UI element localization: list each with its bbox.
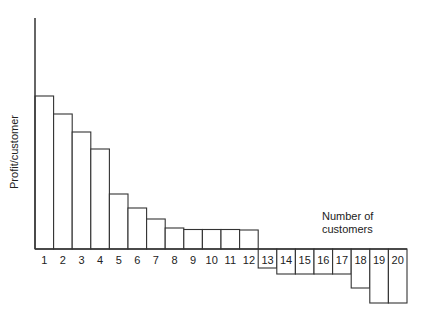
x-tick-label: 11 <box>225 254 236 266</box>
x-axis-label-line-1: Number of <box>322 210 373 223</box>
x-tick-label: 15 <box>299 254 311 266</box>
x-tick-label: 12 <box>243 254 255 266</box>
bar-11 <box>221 230 240 250</box>
chart-canvas: 1234567891011121314151617181920 <box>0 0 421 314</box>
bar-4 <box>91 149 110 249</box>
bar-9 <box>184 230 203 250</box>
x-axis-label: Number of customers <box>322 210 373 236</box>
bar-10 <box>202 230 221 250</box>
x-tick-label: 17 <box>336 254 348 266</box>
x-tick-label: 5 <box>116 254 122 266</box>
x-tick-label: 7 <box>153 254 159 266</box>
bar-8 <box>165 228 184 249</box>
bar-2 <box>54 114 73 249</box>
x-tick-label: 18 <box>354 254 366 266</box>
bar-12 <box>240 230 259 249</box>
x-tick-label: 19 <box>373 254 385 266</box>
x-tick-label: 13 <box>261 254 273 266</box>
bar-7 <box>147 219 166 249</box>
x-axis-label-line-2: customers <box>322 223 373 236</box>
bar-6 <box>128 208 147 249</box>
bar-3 <box>72 132 91 249</box>
x-tick-label: 4 <box>97 254 103 266</box>
bar-1 <box>35 96 54 249</box>
x-tick-label: 16 <box>317 254 329 266</box>
x-tick-label: 8 <box>171 254 177 266</box>
x-tick-label: 14 <box>280 254 292 266</box>
y-axis-label-text: Profit/customer <box>8 115 20 189</box>
profit-per-customer-chart: 1234567891011121314151617181920 Profit/c… <box>0 0 421 314</box>
x-tick-label: 3 <box>78 254 84 266</box>
y-axis-label: Profit/customer <box>2 112 26 192</box>
bar-5 <box>109 194 128 249</box>
x-tick-label: 1 <box>41 254 47 266</box>
x-tick-label: 9 <box>190 254 196 266</box>
x-tick-label: 6 <box>134 254 140 266</box>
x-tick-label: 2 <box>60 254 66 266</box>
x-tick-label: 20 <box>392 254 404 266</box>
x-tick-label: 10 <box>206 254 218 266</box>
